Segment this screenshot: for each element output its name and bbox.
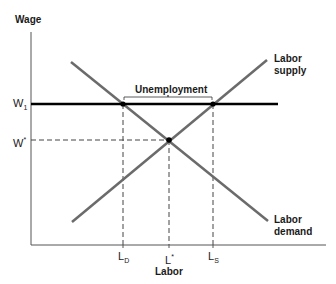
unemployment-bracket bbox=[124, 95, 212, 100]
labor-supply-label: Laborsupply bbox=[274, 53, 306, 77]
w1-sub: 1 bbox=[23, 104, 27, 111]
labor-market-diagram bbox=[0, 0, 336, 284]
ld-sub: D bbox=[124, 257, 129, 264]
demand-line1: Labor bbox=[274, 214, 312, 226]
equilibrium-point bbox=[166, 137, 172, 143]
wstar-main: W bbox=[13, 137, 23, 149]
ld-label: LD bbox=[118, 251, 129, 266]
labor-demand-label: Labordemand bbox=[274, 214, 312, 238]
w1-label: W1 bbox=[13, 98, 27, 113]
ls-label: LS bbox=[208, 251, 219, 266]
lstar-label: L* bbox=[165, 251, 174, 266]
lstar-sup: * bbox=[171, 253, 174, 260]
wstar-label: W* bbox=[13, 134, 26, 149]
ls-sub: S bbox=[214, 257, 219, 264]
supply-w1-point bbox=[210, 101, 215, 106]
wstar-sup: * bbox=[23, 136, 26, 143]
supply-line1: Labor bbox=[274, 53, 306, 65]
unemployment-label: Unemployment bbox=[135, 84, 207, 95]
demand-line2: demand bbox=[274, 226, 312, 238]
y-axis-label: Wage bbox=[15, 14, 41, 25]
demand-w1-point bbox=[120, 101, 125, 106]
w1-main: W bbox=[13, 97, 23, 109]
supply-line2: supply bbox=[274, 65, 306, 77]
x-axis-label: Labor bbox=[155, 266, 183, 277]
